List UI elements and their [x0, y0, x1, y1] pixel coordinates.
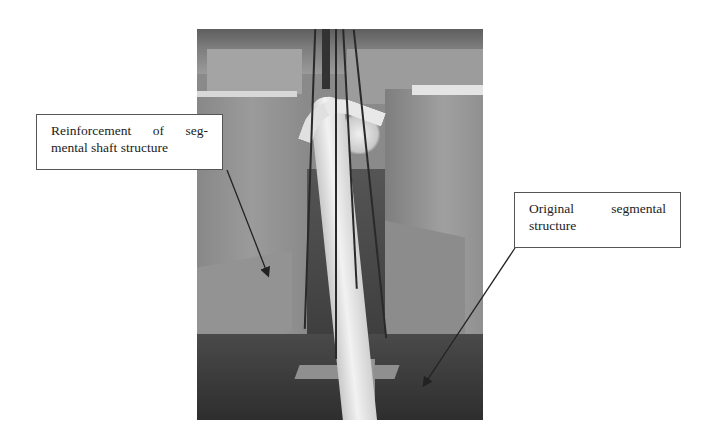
photo-crane-rig	[322, 29, 330, 89]
callout-original-line1: Original segmental	[529, 200, 666, 217]
construction-photo	[197, 29, 483, 420]
photo-ground-left	[207, 49, 302, 94]
callout-original-line2: structure	[529, 217, 666, 234]
photo-rim-left	[197, 91, 297, 97]
callout-reinforcement-line2: mental shaft structure	[51, 139, 208, 156]
callout-reinforcement-line1: Reinforcement of seg-	[51, 122, 208, 139]
photo-reinforcement-segment-lower	[197, 251, 292, 348]
callout-reinforcement: Reinforcement of seg- mental shaft struc…	[36, 114, 223, 170]
photo-crane-cable	[335, 29, 337, 359]
callout-original: Original segmental structure	[514, 192, 681, 248]
photo-rim-right	[412, 85, 483, 95]
